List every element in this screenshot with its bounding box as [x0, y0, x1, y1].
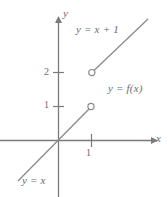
lower-branch-line: [18, 108, 90, 181]
upper-branch-label: y = x + 1: [76, 24, 119, 35]
open-circle-marker-1-1: [88, 103, 94, 109]
function-graph-figure: y = x + 1 y = f(x) y = x 2 1 1 y x: [0, 0, 168, 197]
y-axis-arrowhead: [55, 16, 62, 23]
x-axis: [0, 137, 158, 144]
series-y-equals-x: [18, 103, 94, 181]
lower-branch-label: y = x: [22, 175, 46, 186]
y-tick-label-1: 1: [44, 100, 49, 110]
x-axis-label: x: [156, 133, 161, 144]
y-axis-label: y: [63, 8, 68, 19]
y-tick-label-2: 2: [44, 67, 49, 77]
x-tick-label-1: 1: [86, 148, 91, 158]
open-circle-marker-1-2: [89, 70, 95, 76]
function-label: y = f(x): [108, 83, 143, 94]
